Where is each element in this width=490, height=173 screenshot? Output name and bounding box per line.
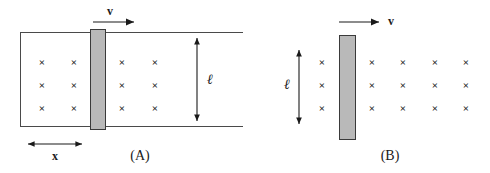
panel-a-field-mark: × [119, 103, 125, 114]
panel-b-field-mark: × [432, 103, 438, 114]
panel-b-field-mark: × [319, 57, 325, 68]
panel-b-field-mark: × [463, 80, 469, 91]
panel-a-length-label: ℓ [207, 73, 213, 87]
panel-a-field-mark: × [119, 80, 125, 91]
panel-a-field-mark: × [119, 57, 125, 68]
panel-b-caption: (B) [381, 149, 400, 163]
panel-b-field-mark: × [463, 103, 469, 114]
panel-a-field-mark: × [152, 80, 158, 91]
panel-b-field-mark: × [400, 103, 406, 114]
panel-a-top-rail [20, 32, 243, 33]
panel-a-field-mark: × [71, 80, 77, 91]
panel-b-field-mark: × [400, 80, 406, 91]
panel-a-velocity-label: v [107, 5, 113, 17]
panel-b-field-mark: × [369, 80, 375, 91]
panel-b-field-mark: × [400, 57, 406, 68]
panel-a-field-mark: × [39, 80, 45, 91]
panel-a-field-mark: × [152, 57, 158, 68]
panel-b-sliding-bar [339, 35, 356, 140]
panel-a-distance-label: x [52, 150, 58, 162]
physics-figure-motional-emf: × × × × × × × × × × × × v ℓ x (A) × × × … [0, 0, 490, 173]
panel-a-field-mark: × [71, 103, 77, 114]
panel-a-field-mark: × [39, 103, 45, 114]
panel-b-length-label: ℓ [284, 78, 290, 92]
panel-b-field-mark: × [463, 57, 469, 68]
panel-a-bottom-rail [20, 126, 243, 127]
panel-a-left-rail [20, 32, 21, 127]
panel-a-sliding-bar [90, 29, 106, 130]
panel-b-field-mark: × [432, 80, 438, 91]
panel-b-field-mark: × [369, 103, 375, 114]
panel-b-field-mark: × [369, 57, 375, 68]
panel-a-field-mark: × [71, 57, 77, 68]
panel-b-field-mark: × [319, 80, 325, 91]
panel-a-field-mark: × [152, 103, 158, 114]
panel-b-field-mark: × [319, 103, 325, 114]
panel-a-caption: (A) [130, 149, 149, 163]
panel-b-field-mark: × [432, 57, 438, 68]
panel-a-field-mark: × [39, 57, 45, 68]
panel-b-velocity-label: v [388, 15, 394, 27]
